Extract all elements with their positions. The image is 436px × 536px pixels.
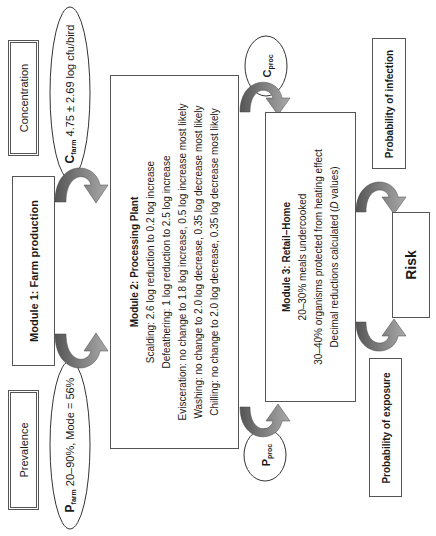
module3-title: Module 3: Retail–Home [279, 149, 295, 365]
arrow-retail-to-risk-bottom [356, 319, 406, 351]
probability-of-infection-box: Probability of infection [372, 38, 406, 169]
p-proc-symbol: P [260, 459, 272, 466]
prevalence-label: Prevalence [18, 422, 30, 477]
module1-title: Module 1: Farm production [28, 200, 40, 342]
p-farm-symbol: P [63, 504, 77, 512]
module2-line-washing: Washing: no change to 2.0 log decrease, … [191, 104, 207, 421]
module3-line-undercooked: 20–30% meals undercooked [295, 149, 311, 365]
module2-line-scalding: Scalding: 2.6 log reduction to 0.2 log i… [143, 104, 159, 421]
p-proc-subscript: proc [266, 444, 273, 459]
module3-box: Module 3: Retail–Home 20–30% meals under… [265, 112, 356, 402]
c-proc-subscript: proc [267, 54, 274, 69]
c-proc-node: Cproc [245, 36, 287, 96]
module2-line-evisceration: Evisceration: no change to 1.8 log incre… [175, 104, 191, 421]
probability-of-infection-label: Probability of infection [384, 49, 395, 157]
p-farm-subscript: farm [70, 489, 77, 504]
module3-line-decimal: Decimal reductions calculated (D values) [327, 149, 343, 365]
p-farm-value: 20–90%, Mode = 56% [64, 378, 76, 487]
prevalence-box: Prevalence [8, 390, 39, 510]
probability-of-exposure-label: Probability of exposure [380, 372, 391, 483]
module2-line-defeathering: Defeathering: 1 log reduction to 2.5 log… [159, 104, 175, 421]
c-farm-symbol: C [63, 155, 77, 164]
c-proc-symbol: C [261, 70, 273, 78]
arrow-retail-to-risk-top [356, 182, 406, 214]
c-farm-node: Cfarm 4.75 ± 2.69 log cfu/bird [50, 8, 90, 180]
module1-box: Module 1: Farm production [12, 176, 55, 366]
module3-line-protected: 30–40% organisms protected from heating … [311, 149, 327, 365]
concentration-label: Concentration [18, 64, 30, 133]
module2-line-chilling: Chilling: no change to 2.0 log decrease,… [207, 104, 223, 421]
module2-title: Module 2: Processing Plant [127, 104, 143, 421]
risk-box: Risk [392, 212, 430, 318]
p-proc-node: Pproc [244, 429, 286, 481]
risk-label: Risk [403, 250, 419, 280]
concentration-box: Concentration [8, 40, 39, 156]
probability-of-exposure-box: Probability of exposure [369, 358, 402, 497]
c-farm-value: 4.75 ± 2.69 log cfu/bird [64, 25, 76, 137]
c-farm-subscript: farm [70, 140, 77, 155]
p-farm-node: Pfarm 20–90%, Mode = 56% [50, 361, 90, 529]
module2-box: Module 2: Processing Plant Scalding: 2.6… [110, 75, 239, 449]
